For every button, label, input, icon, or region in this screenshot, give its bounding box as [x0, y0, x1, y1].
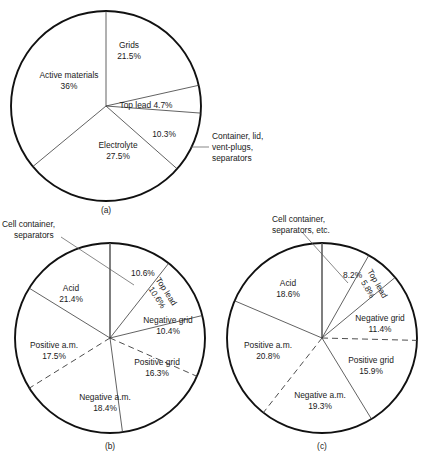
panel-a-electrolyte-label: Electrolyte: [98, 140, 137, 150]
panel-a-container-line3: separators: [212, 153, 252, 163]
panel-c-posam-value: 20.8%: [256, 351, 280, 361]
panel-b-acid-label: Acid: [63, 283, 80, 293]
panel-b-caption: (b): [105, 441, 115, 451]
panel-c-acid-label: Acid: [280, 278, 297, 288]
panel-c-cellcontainer-value: 8.2%: [343, 270, 363, 280]
panel-c-negam-value: 19.3%: [308, 401, 332, 411]
panel-b-cellcontainer-value: 10.6%: [131, 268, 155, 278]
panel-a-caption: (a): [101, 205, 111, 215]
panel-b: Cell container, separators 10.6% Top lea…: [2, 219, 205, 451]
panel-b-posam-value: 17.5%: [42, 351, 66, 361]
panel-b-acid-value: 21.4%: [59, 294, 83, 304]
panel-c-cellcontainer-line2: separators, etc.: [272, 225, 330, 235]
panel-c-posam-label: Positive a.m.: [244, 340, 292, 350]
panel-c-caption: (c): [317, 441, 327, 451]
panel-c-cellcontainer-line1: Cell container,: [272, 214, 325, 224]
panel-a: Grids 21.5% Active materials 36% Electro…: [11, 11, 263, 215]
panel-b-cellcontainer-line1: Cell container,: [2, 219, 55, 229]
panel-c-negam-label: Negative a.m.: [294, 390, 346, 400]
panel-a-toplead-label: Top lead 4.7%: [119, 100, 173, 110]
panel-b-posgrid-label: Positive grid: [134, 357, 180, 367]
panel-b-cellcontainer-line2: separators: [14, 230, 54, 240]
panel-c-neggrid-value: 11.4%: [368, 324, 392, 334]
panel-a-active-value: 36%: [61, 81, 78, 91]
panel-b-posam-label: Positive a.m.: [30, 340, 78, 350]
panel-c-acid-value: 18.6%: [276, 289, 300, 299]
figure-container: Grids 21.5% Active materials 36% Electro…: [0, 0, 424, 456]
panel-b-negam-value: 18.4%: [93, 403, 117, 413]
panel-a-container-line1: Container, lid,: [212, 131, 263, 141]
panel-a-container-line2: vent-plugs,: [212, 142, 253, 152]
panel-b-negam-label: Negative a.m.: [79, 392, 131, 402]
panel-b-neggrid-label: Negative grid: [143, 315, 193, 325]
panel-a-grids-value: 21.5%: [117, 51, 141, 61]
panel-c: Cell container, separators, etc. 8.2% To…: [227, 214, 417, 451]
panel-c-posgrid-label: Positive grid: [348, 355, 394, 365]
panel-a-electrolyte-value: 27.5%: [106, 151, 130, 161]
panel-a-container-value: 10.3%: [152, 129, 176, 139]
panel-b-neggrid-value: 10.4%: [156, 326, 180, 336]
panel-c-neggrid-label: Negative grid: [355, 313, 405, 323]
panel-c-posgrid-value: 15.9%: [359, 366, 383, 376]
panel-a-active-label: Active materials: [39, 70, 98, 80]
panel-b-posgrid-value: 16.3%: [145, 368, 169, 378]
panel-a-grids-label: Grids: [119, 40, 139, 50]
pie-charts-figure: Grids 21.5% Active materials 36% Electro…: [0, 0, 424, 456]
